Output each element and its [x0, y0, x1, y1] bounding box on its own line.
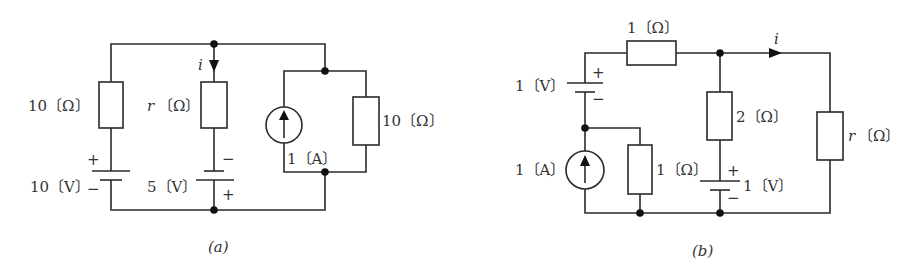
resistor-a-mid-label: 〔Ω〕 [158, 97, 200, 115]
battery-a-left-minus: − [87, 180, 100, 198]
node-b-bottom-mid [716, 209, 724, 217]
battery-a-mid-plus: + [222, 186, 235, 204]
battery-a-left-label: 10〔V〕 [30, 178, 90, 196]
battery-b-mid-label: 1〔V〕 [743, 177, 793, 195]
resistor-b-right-label: 〔Ω〕 [858, 127, 900, 145]
wire-a-top [111, 44, 325, 82]
battery-a-mid-label: 5〔V〕 [147, 178, 197, 196]
battery-b-mid-plus: + [727, 162, 740, 180]
wire-b-top-right [676, 53, 830, 112]
resistor-b-left [628, 145, 652, 194]
node-a-inner-bottom [321, 168, 329, 176]
caption-b: (b) [692, 242, 713, 260]
resistor-b-right-var: r [848, 127, 856, 145]
current-arrow-icon [769, 48, 782, 58]
battery-b-left-label: 1〔V〕 [515, 77, 565, 95]
resistor-a-mid-var: r [147, 97, 155, 115]
circuit-a: i 10〔Ω〕 r 〔Ω〕 10〔V〕 + − 5〔V〕 − + 1〔A〕 10… [28, 40, 444, 256]
resistor-b-mid [707, 92, 732, 140]
node-a-bottom [210, 206, 218, 214]
current-label-a: i [198, 56, 203, 74]
resistor-b-mid-label: 2〔Ω〕 [736, 108, 788, 126]
node-b-left [581, 124, 589, 132]
resistor-a-mid [201, 82, 227, 128]
node-b-bottom-left [636, 209, 644, 217]
circuit-diagrams: i 10〔Ω〕 r 〔Ω〕 10〔V〕 + − 5〔V〕 − + 1〔A〕 10… [0, 0, 911, 278]
resistor-a-left-label: 10〔Ω〕 [28, 97, 90, 115]
battery-b-left-plus: + [592, 64, 605, 82]
wire-b-inner-top [585, 128, 640, 145]
node-a-top [210, 40, 218, 48]
resistor-b-top-label: 1〔Ω〕 [627, 19, 679, 37]
resistor-a-right-label: 10〔Ω〕 [382, 112, 444, 130]
resistor-b-left-label: 1〔Ω〕 [656, 161, 708, 179]
resistor-b-right [817, 112, 843, 160]
battery-a-mid-minus: − [222, 150, 235, 168]
resistor-a-left [99, 82, 123, 128]
node-a-inner-top [321, 67, 329, 75]
battery-b-mid-minus: − [727, 189, 740, 207]
current-arrow-icon [209, 60, 219, 72]
battery-b-left-minus: − [592, 90, 605, 108]
current-source-b-label: 1〔A〕 [515, 161, 565, 179]
resistor-b-top [627, 41, 676, 65]
wire-a-bottom [111, 172, 325, 210]
caption-a: (a) [208, 238, 229, 256]
current-source-a-label: 1〔A〕 [287, 150, 337, 168]
resistor-a-right [353, 97, 379, 145]
node-b-top [716, 49, 724, 57]
current-label-b: i [774, 30, 779, 48]
battery-a-left-plus: + [87, 151, 100, 169]
circuit-b: 1〔Ω〕 i 1〔V〕 + − 1〔A〕 1〔Ω〕 2〔Ω〕 + − [515, 19, 900, 260]
